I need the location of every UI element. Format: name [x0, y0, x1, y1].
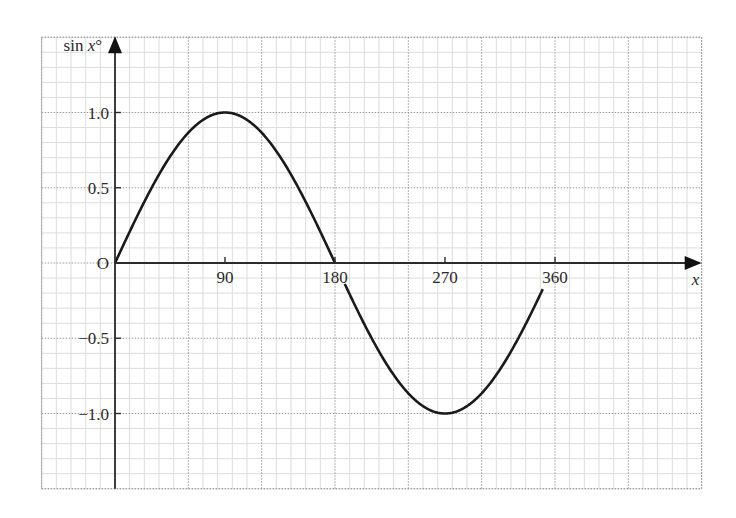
y-tick-label: −0.5 [78, 329, 109, 348]
y-tick-label: −1.0 [78, 405, 109, 424]
y-tick-label: 0.5 [88, 179, 109, 198]
y-axis-title: sin x° [64, 36, 102, 55]
y-axis-title-prefix: sin [64, 36, 88, 55]
x-tick-label: 180 [322, 268, 348, 287]
sine-graph: 901802703601.00.5−0.5−1.0 O x sin x° [0, 0, 736, 518]
chart-canvas: 901802703601.00.5−0.5−1.0 O x sin x° [0, 0, 736, 518]
y-tick-label: 1.0 [88, 104, 109, 123]
axes [108, 36, 702, 489]
x-tick-label: 90 [217, 268, 234, 287]
x-axis-arrow-icon [685, 256, 702, 270]
y-axis-arrow-icon [108, 36, 122, 53]
x-tick-label: 360 [542, 268, 568, 287]
x-tick-label: 270 [432, 268, 458, 287]
origin-label: O [97, 254, 109, 273]
y-axis-title-suffix: ° [95, 36, 102, 55]
x-axis-title: x [691, 270, 700, 289]
sine-curve-segment [345, 284, 543, 414]
